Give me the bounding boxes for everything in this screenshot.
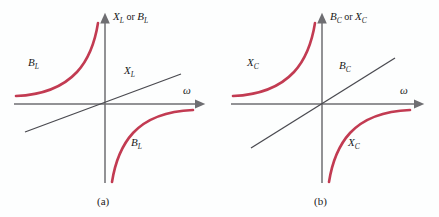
vertical-axis-label-second-symbol: B: [137, 10, 144, 22]
vertical-axis-label: BC or XC: [330, 11, 367, 25]
panel-b-plot: [219, 0, 439, 217]
vertical-axis-label-conjunction: or: [126, 11, 134, 22]
panel-a: XL or BL ω BL BL XL (a): [0, 0, 219, 217]
curve-label-lower-right-subscript: C: [355, 142, 360, 151]
hyperbola-branch-lower-right: [112, 110, 193, 182]
panel-b-caption: (b): [314, 195, 327, 207]
curve-label-lower-right: XC: [348, 137, 360, 151]
hyperbola-branch-lower-right: [329, 110, 410, 182]
vertical-axis-label-first-symbol: B: [330, 10, 337, 22]
line-label-diagonal-subscript: L: [131, 70, 135, 79]
vertical-axis-label-conjunction: or: [344, 11, 352, 22]
curve-label-upper-left-symbol: X: [247, 56, 254, 68]
line-label-diagonal-symbol: X: [124, 64, 131, 76]
horizontal-axis-label: ω: [183, 84, 191, 96]
curve-label-lower-right-symbol: B: [131, 136, 138, 148]
curve-label-upper-left-symbol: B: [28, 56, 35, 68]
linear-series-line: [251, 58, 395, 148]
vertical-axis-label-first-symbol: X: [113, 10, 120, 22]
curve-label-upper-left: BL: [28, 57, 39, 71]
vertical-axis-label: XL or BL: [113, 11, 148, 25]
curve-label-upper-left-subscript: L: [35, 62, 39, 71]
curve-label-upper-left-subscript: C: [254, 62, 259, 71]
line-label-diagonal: BC: [339, 60, 351, 74]
curve-label-upper-left: XC: [247, 57, 259, 71]
panel-b: BC or XC ω XC XC BC (b): [219, 0, 438, 217]
line-label-diagonal-symbol: B: [339, 59, 346, 71]
vertical-axis-label-second-subscript: C: [362, 16, 367, 25]
horizontal-axis-label: ω: [400, 84, 408, 96]
panel-a-plot: [0, 0, 219, 217]
panel-a-caption: (a): [97, 195, 109, 207]
line-label-diagonal-subscript: C: [346, 65, 351, 74]
linear-series-line: [25, 74, 181, 132]
curve-label-lower-right-symbol: X: [348, 136, 355, 148]
curve-label-lower-right-subscript: L: [138, 142, 142, 151]
hyperbola-branch-upper-left: [233, 23, 315, 96]
curve-label-lower-right: BL: [131, 137, 142, 151]
vertical-axis-label-second-subscript: L: [144, 16, 148, 25]
figure-container: XL or BL ω BL BL XL (a): [0, 0, 439, 217]
line-label-diagonal: XL: [124, 65, 135, 79]
vertical-axis-label-second-symbol: X: [355, 10, 362, 22]
